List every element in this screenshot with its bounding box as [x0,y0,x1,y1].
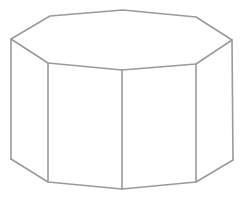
octagonal-prism-drawing [0,0,243,197]
top-face [11,10,232,70]
vertical-edge-5 [232,40,233,160]
octagonal-prism-figure [0,0,243,197]
